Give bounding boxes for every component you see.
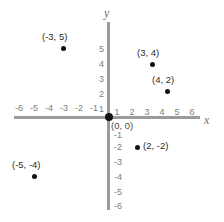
data-point-3-4 <box>150 62 155 67</box>
x-axis-label: x <box>204 113 209 128</box>
x-tick--5: -5 <box>27 103 41 113</box>
y-tick--1: -1 <box>110 130 122 140</box>
x-tick-3: 3 <box>140 107 154 117</box>
point-label-4-2: (4, 2) <box>152 74 174 85</box>
x-tick--2: -2 <box>72 103 86 113</box>
point-label-neg5-neg4: (-5, -4) <box>12 159 41 170</box>
x-tick-4: 4 <box>155 107 169 117</box>
y-tick-3: 3 <box>92 74 104 84</box>
x-tick-5: 5 <box>170 107 184 117</box>
data-point-2-neg2 <box>135 145 140 150</box>
x-tick--3: -3 <box>57 103 71 113</box>
y-tick--3: -3 <box>110 157 122 167</box>
y-tick--4: -4 <box>110 172 122 182</box>
data-point-neg5-neg4 <box>32 174 37 179</box>
point-label-2-neg2: (2, -2) <box>143 140 168 151</box>
coordinate-plane: x y -6 -5 -4 -3 -2 -1 1 2 3 4 5 6 5 4 3 … <box>0 0 224 222</box>
data-point-4-2 <box>165 89 170 94</box>
y-tick-5: 5 <box>92 44 104 54</box>
y-tick--2: -2 <box>110 142 122 152</box>
x-tick--6: -6 <box>12 103 26 113</box>
x-tick-6: 6 <box>185 107 199 117</box>
point-label-neg3-5: (-3, 5) <box>42 31 67 42</box>
x-tick--4: -4 <box>42 103 56 113</box>
y-axis-label: y <box>104 6 109 21</box>
y-tick-4: 4 <box>92 59 104 69</box>
x-tick-2: 2 <box>125 107 139 117</box>
y-tick--6: -6 <box>110 201 122 211</box>
y-tick-1: 1 <box>92 104 104 114</box>
y-tick--5: -5 <box>110 187 122 197</box>
data-point-neg3-5 <box>61 46 66 51</box>
point-label-3-4: (3, 4) <box>137 47 159 58</box>
y-tick-2: 2 <box>92 89 104 99</box>
point-label-origin: (0, 0) <box>111 120 133 131</box>
